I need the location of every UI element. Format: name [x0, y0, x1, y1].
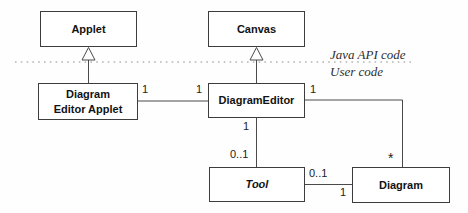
- class-box-diagram-editor: DiagramEditor: [208, 83, 305, 118]
- multiplicity-tool-top-end: 0..1: [230, 149, 248, 160]
- multiplicity-editor-left-end: 1: [196, 84, 202, 95]
- uml-class-diagram: Applet Canvas Diagram Editor Applet Diag…: [0, 0, 468, 213]
- multiplicity-tool-right-end: 0..1: [309, 168, 327, 179]
- class-box-applet: Applet: [40, 11, 137, 47]
- multiplicity-editor-bottom-end: 1: [243, 121, 249, 132]
- generalization-arrow-icon-canvas: [250, 48, 263, 61]
- class-box-diagram: Diagram: [352, 167, 450, 203]
- multiplicity-diagram-top-end: *: [388, 151, 393, 165]
- multiplicity-editor-right-end: 1: [310, 84, 316, 95]
- class-box-diagram-editor-applet: Diagram Editor Applet: [38, 83, 138, 120]
- class-name-diagram-editor: DiagramEditor: [219, 93, 295, 107]
- class-box-canvas: Canvas: [208, 11, 305, 47]
- class-name-applet: Applet: [71, 22, 105, 36]
- region-label-user-code: User code: [330, 65, 383, 78]
- class-name-diagram-editor-applet: Diagram Editor Applet: [54, 87, 123, 116]
- region-label-java-api-code: Java API code: [330, 48, 406, 61]
- class-box-tool: Tool: [209, 167, 305, 202]
- generalization-arrow-icon-applet: [82, 48, 95, 61]
- class-name-tool: Tool: [246, 177, 269, 191]
- multiplicity-diagram-left-end: 1: [340, 187, 346, 198]
- class-name-canvas: Canvas: [237, 22, 276, 36]
- multiplicity-applet-editor-end: 1: [142, 84, 148, 95]
- class-name-diagram: Diagram: [379, 178, 423, 192]
